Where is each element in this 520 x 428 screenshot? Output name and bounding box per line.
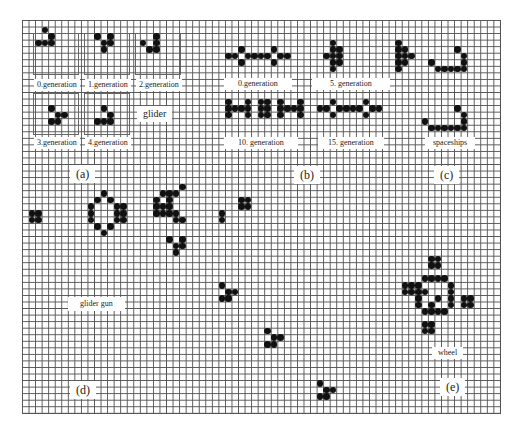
live-cell <box>467 302 474 309</box>
live-cell <box>238 203 245 210</box>
panel-letter-c: (c) <box>434 166 459 184</box>
label-oscillator-gen5: 5. generation <box>312 78 390 90</box>
live-cell <box>271 341 278 348</box>
panel-letter-d: (d) <box>70 381 96 399</box>
live-cell <box>94 197 101 204</box>
live-cell <box>454 105 461 112</box>
label-glider-gen0: 0.generation <box>34 79 80 91</box>
live-cell <box>323 393 330 400</box>
live-cell <box>173 190 180 197</box>
live-cell <box>369 105 376 112</box>
live-cell <box>415 295 422 302</box>
live-cell <box>284 105 291 112</box>
live-cell <box>101 46 108 53</box>
live-cell <box>153 210 160 217</box>
live-cell <box>422 118 429 125</box>
live-cell <box>297 112 304 119</box>
live-cell <box>166 236 173 243</box>
label-oscillator-gen10: 10. generation <box>224 137 298 149</box>
live-cell <box>277 334 284 341</box>
live-cell <box>336 59 343 66</box>
live-cell <box>251 53 258 60</box>
live-cell <box>94 118 101 125</box>
live-cell <box>107 40 114 47</box>
live-cell <box>376 105 383 112</box>
live-cell <box>179 184 186 191</box>
live-cell <box>454 46 461 53</box>
live-cell <box>323 105 330 112</box>
live-cell <box>428 302 435 309</box>
live-cell <box>166 197 173 204</box>
live-cell <box>428 328 435 335</box>
live-cell <box>107 223 114 230</box>
live-cell <box>428 262 435 269</box>
live-cell <box>35 217 42 224</box>
live-cell <box>343 105 350 112</box>
label-glider-gen4: 4.generation <box>85 137 131 149</box>
live-cell <box>238 105 245 112</box>
live-cell <box>448 295 455 302</box>
live-cell <box>173 249 180 256</box>
live-cell <box>238 59 245 66</box>
live-cell <box>179 243 186 250</box>
live-cell <box>173 210 180 217</box>
panel-letter-a: (a) <box>70 165 95 183</box>
live-cell <box>264 341 271 348</box>
live-cell <box>94 223 101 230</box>
live-cell <box>264 112 271 119</box>
live-cell <box>153 203 160 210</box>
live-cell <box>395 46 402 53</box>
live-cell <box>179 217 186 224</box>
live-cell <box>88 217 95 224</box>
live-cell <box>153 46 160 53</box>
label-glider-gen3: 3.generation <box>34 137 80 149</box>
caption-wheel: wheel <box>432 347 463 359</box>
live-cell <box>120 217 127 224</box>
live-cell <box>428 321 435 328</box>
live-cell <box>35 210 42 217</box>
live-cell <box>107 197 114 204</box>
live-cell <box>435 262 442 269</box>
caption-glider-gun: glider gun <box>68 297 125 311</box>
live-cell <box>225 53 232 60</box>
live-cell <box>428 308 435 315</box>
caption-glider: glider <box>137 106 172 122</box>
live-cell <box>107 33 114 40</box>
live-cell <box>94 33 101 40</box>
live-cell <box>448 282 455 289</box>
live-cell <box>48 33 55 40</box>
live-cell <box>48 40 55 47</box>
live-cell <box>317 380 324 387</box>
glider-gen1-box <box>84 33 130 75</box>
live-cell <box>441 125 448 132</box>
live-cell <box>219 217 226 224</box>
live-cell <box>225 295 232 302</box>
label-oscillator-gen15: 15. generation <box>318 137 384 149</box>
live-cell <box>336 105 343 112</box>
panel-letter-b: (b) <box>294 166 320 184</box>
live-cell <box>120 210 127 217</box>
live-cell <box>166 203 173 210</box>
caption-spaceships: spaceships <box>425 137 475 149</box>
live-cell <box>55 118 62 125</box>
live-cell <box>467 295 474 302</box>
live-cell <box>428 59 435 66</box>
live-cell <box>219 210 226 217</box>
live-cell <box>225 112 232 119</box>
live-cell <box>107 118 114 125</box>
live-cell <box>88 203 95 210</box>
panel-letter-e: (e) <box>440 378 465 396</box>
label-glider-gen2: 2.generation <box>136 79 182 91</box>
live-cell <box>245 105 252 112</box>
live-cell <box>101 105 108 112</box>
label-oscillator-gen0: 0.generation <box>224 78 292 90</box>
label-glider-gen1: 1.generation <box>85 79 131 91</box>
live-cell <box>415 302 422 309</box>
live-cell <box>297 105 304 112</box>
live-cell <box>166 210 173 217</box>
live-cell <box>35 40 42 47</box>
live-cell <box>428 125 435 132</box>
live-cell <box>264 105 271 112</box>
live-cell <box>428 275 435 282</box>
live-cell <box>48 105 55 112</box>
